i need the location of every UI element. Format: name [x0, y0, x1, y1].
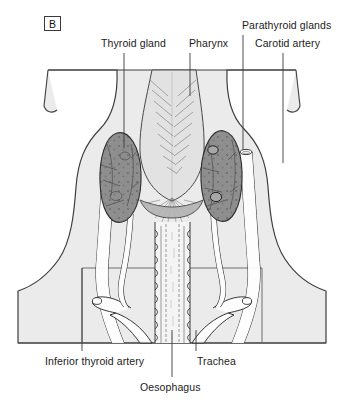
label-parathyroid-glands: Parathyroid glands — [242, 19, 331, 31]
label-thyroid-gland: Thyroid gland — [101, 37, 166, 49]
parathyroid-gland-superior — [208, 146, 218, 154]
figure-panel-b: B Thyroid gland Pharynx Parathyroid glan… — [0, 0, 343, 409]
label-pharynx: Pharynx — [189, 37, 228, 49]
thyroid-gland-right-lobe — [201, 131, 242, 222]
label-inferior-thyroid-artery: Inferior thyroid artery — [45, 355, 144, 367]
label-oesophagus: Oesophagus — [140, 381, 201, 393]
trachea — [155, 222, 190, 343]
label-trachea: Trachea — [197, 355, 236, 367]
label-carotid-artery: Carotid artery — [255, 37, 320, 49]
anatomy-illustration — [0, 0, 343, 409]
parathyroid-gland-inferior — [210, 192, 221, 201]
panel-letter-badge: B — [44, 16, 61, 31]
thyroid-gland-left-lobe — [100, 133, 141, 223]
